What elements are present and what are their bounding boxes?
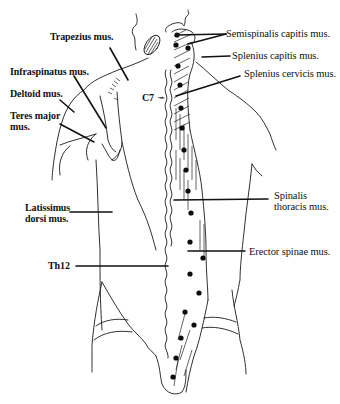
head-outline-right: [165, 10, 188, 32]
label-c7: C7: [142, 92, 154, 103]
label-teres-major-1: Teres major: [10, 110, 60, 121]
left-ear-shape: [141, 33, 163, 58]
leader-trapezius: [110, 48, 128, 80]
left-shoulder-top: [84, 58, 148, 90]
right-lateral-notch: [252, 164, 262, 176]
left-lateral-trunk: [96, 160, 102, 330]
left-flank: [122, 142, 156, 250]
leader-semispinalis-2: [188, 34, 226, 44]
infraspinatus-hatch-marks: [108, 78, 120, 100]
leader-semispinalis-1: [176, 34, 226, 35]
right-erector-lower: [186, 300, 208, 392]
label-erector-spinae: Erector spinae mus.: [249, 246, 330, 257]
neck-outline-left: [132, 14, 137, 50]
spinous-process-line-2: [170, 70, 172, 246]
label-latissimus-2: dorsi mus.: [25, 213, 68, 224]
left-hip-curve: [102, 282, 156, 356]
right-iliac-crest-1: [204, 317, 236, 322]
left-iliac-crest-2: [94, 331, 132, 340]
label-latissimus-1: Latissimus: [25, 202, 70, 213]
label-teres-major-2: mus.: [10, 121, 30, 132]
label-deltoid: Deltoid mus.: [10, 88, 63, 99]
leader-splenius-capitis: [202, 56, 230, 57]
anatomy-figure: Trapezius mus. Infraspinatus mus. Deltoi…: [0, 0, 340, 404]
scapula-medial-border: [100, 96, 116, 152]
left-arm-lower: [59, 146, 70, 175]
label-infraspinatus: Infraspinatus mus.: [10, 66, 89, 77]
sacral-outline: [156, 356, 186, 394]
spinous-process-line: [165, 70, 168, 358]
label-trapezius: Trapezius mus.: [50, 31, 113, 42]
splenius-outline: [188, 44, 194, 130]
leader-splenius-cervicis: [176, 76, 240, 96]
label-splenius-cervicis: Splenius cervicis mus.: [244, 68, 336, 79]
right-lateral-trunk: [234, 164, 252, 306]
leader-deltoid: [60, 100, 74, 112]
label-semispinalis-capitis: Semispinalis capitis mus.: [226, 28, 330, 39]
label-splenius-capitis: Splenius capitis mus.: [232, 50, 319, 61]
label-spinalis-1: Spinalis: [274, 190, 307, 201]
label-th12: Th12: [48, 260, 70, 271]
right-iliac-crest-2: [202, 327, 238, 334]
c7-arrow-icon: →: [156, 91, 165, 102]
label-spinalis-2: thoracis mus.: [274, 201, 329, 212]
right-erector-outline: [190, 130, 208, 300]
left-iliac-crest-1: [96, 319, 128, 326]
leader-spinalis-thoracis: [174, 199, 268, 200]
left-ear-hatching: [145, 37, 158, 55]
